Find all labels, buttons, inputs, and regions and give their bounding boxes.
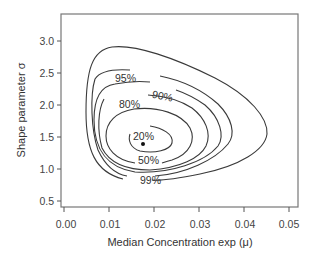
x-axis-label: Median Concentration exp (μ)	[107, 236, 252, 248]
x-tick-label: 0.00	[56, 218, 77, 230]
contour-label-50: 50%	[138, 154, 159, 166]
contour-label-20: 20%	[133, 130, 154, 142]
x-tick-label: 0.01	[100, 218, 121, 230]
contour-99	[86, 47, 267, 181]
contour-label-80: 80%	[119, 98, 140, 110]
contour-label-90: 90%	[151, 88, 174, 104]
contour-label-95: 95%	[115, 72, 136, 84]
y-tick-label: 3.0	[39, 35, 54, 47]
x-tick-label: 0.03	[190, 218, 211, 230]
y-tick-label: 2.5	[39, 67, 54, 79]
y-axis-label: Shape parameter σ	[15, 62, 27, 157]
contour-chart: 3.0 2.5 2.0 1.5 1.0 0.5 Shape parameter …	[0, 0, 317, 261]
contours	[86, 47, 267, 181]
y-axis: 3.0 2.5 2.0 1.5 1.0 0.5 Shape parameter …	[15, 35, 61, 207]
y-tick-label: 1.0	[39, 163, 54, 175]
x-tick-label: 0.02	[145, 218, 166, 230]
point-estimate-marker	[141, 142, 145, 146]
y-tick-label: 2.0	[39, 99, 54, 111]
x-tick-label: 0.04	[235, 218, 256, 230]
contour-label-99: 99%	[140, 174, 161, 186]
y-tick-label: 1.5	[39, 131, 54, 143]
y-tick-label: 0.5	[39, 195, 54, 207]
x-tick-label: 0.05	[279, 218, 300, 230]
x-axis: 0.00 0.01 0.02 0.03 0.04 0.05 Median Con…	[56, 207, 300, 248]
